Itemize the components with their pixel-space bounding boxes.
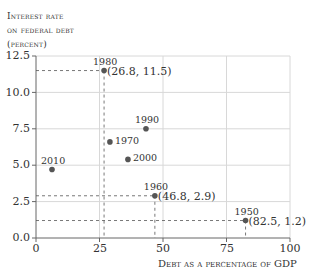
y-tick-label: 12.5 [0, 49, 30, 62]
point-coordinate-label: (46.8, 2.9) [158, 190, 216, 203]
point-year-label: 1970 [115, 135, 139, 146]
x-axis-label: Debt as a percentage of GDP [158, 258, 297, 269]
y-tick-label: 2.5 [0, 195, 30, 208]
y-tick-label: 7.5 [0, 122, 30, 135]
point-year-label: 2000 [133, 152, 157, 163]
x-tick-label: 25 [85, 242, 115, 255]
data-point [152, 193, 158, 199]
point-coordinate-label: (26.8, 11.5) [107, 65, 172, 78]
y-axis-label-line-2: on federal debt [7, 23, 74, 37]
data-point [49, 167, 55, 173]
point-year-label: 2010 [41, 155, 65, 166]
data-point [101, 68, 107, 74]
y-axis-label-line-1: Interest rate [7, 9, 74, 23]
data-point [125, 157, 131, 163]
point-year-label: 1990 [135, 114, 159, 125]
y-tick-label: 5.0 [0, 158, 30, 171]
data-point [143, 126, 149, 132]
y-axis-label: Interest rate on federal debt (percent) [7, 9, 74, 51]
y-tick-label: 10.0 [0, 86, 30, 99]
x-tick-label: 75 [212, 242, 242, 255]
point-coordinate-label: (82.5, 1.2) [249, 215, 307, 228]
x-tick-label: 100 [275, 242, 305, 255]
x-tick-label: 0 [21, 242, 51, 255]
x-tick-label: 50 [148, 242, 178, 255]
data-point [243, 218, 249, 224]
data-point [107, 139, 113, 145]
